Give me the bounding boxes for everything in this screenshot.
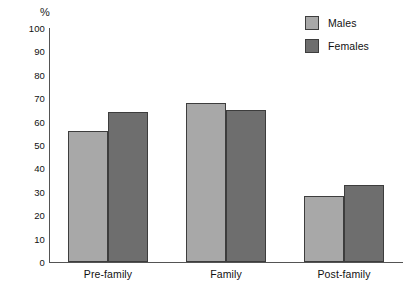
bar-pre-family-females [108, 112, 148, 262]
bar-family-males [186, 103, 226, 262]
y-axis-tick-50: 50 [1, 140, 45, 151]
legend-item-females: Females [305, 39, 369, 53]
bar-group-post-family [285, 28, 403, 262]
y-axis-tick-0: 0 [1, 257, 45, 268]
plot-area [49, 28, 403, 262]
y-axis-tick-100: 100 [1, 23, 45, 34]
y-axis-tick-40: 40 [1, 163, 45, 174]
bar-post-family-males [304, 196, 344, 262]
bar-group-pre-family [49, 28, 167, 262]
y-axis-tick-90: 90 [1, 46, 45, 57]
bar-post-family-females [344, 185, 384, 262]
legend-swatch-icon-females [305, 39, 319, 53]
x-axis-line [49, 262, 403, 263]
legend-item-males: Males [305, 16, 369, 30]
x-axis-label-pre-family: Pre-family [49, 268, 167, 280]
legend-label-females: Females [328, 40, 369, 52]
y-axis-tick-70: 70 [1, 93, 45, 104]
y-axis-tick-10: 10 [1, 233, 45, 244]
x-axis-label-post-family: Post-family [285, 268, 403, 280]
y-axis-tick-80: 80 [1, 69, 45, 80]
bar-chart: % 1009080706050403020100 MalesFemales Pr… [0, 0, 412, 299]
x-axis-label-family: Family [167, 268, 285, 280]
bar-family-females [226, 110, 266, 262]
legend-swatch-icon-males [305, 16, 319, 30]
bar-pre-family-males [68, 131, 108, 262]
y-axis-tick-labels: 1009080706050403020100 [0, 0, 45, 299]
legend-label-males: Males [328, 17, 357, 29]
y-axis-tick-60: 60 [1, 116, 45, 127]
bar-group-family [167, 28, 285, 262]
legend: MalesFemales [305, 16, 369, 62]
y-axis-tick-20: 20 [1, 210, 45, 221]
y-axis-tick-30: 30 [1, 186, 45, 197]
